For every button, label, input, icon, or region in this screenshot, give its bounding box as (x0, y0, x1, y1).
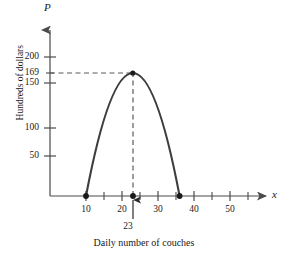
x-tick-label-20: 20 (107, 205, 137, 215)
chart-figure: P x 200 169 150 100 50 10 20 30 40 50 23… (0, 0, 288, 254)
y-axis-symbol: P (44, 2, 51, 13)
x-axis-title: Daily number of couches (0, 238, 288, 248)
x-tick-label-50: 50 (215, 205, 245, 215)
x-axis-symbol: x (272, 189, 277, 200)
parabola-plot (0, 0, 288, 254)
y-axis-title: Hundreds of dollars (16, 13, 26, 153)
x-tick-label-10: 10 (71, 205, 101, 215)
marker-right-root (177, 193, 183, 199)
x-tick-label-30: 30 (143, 205, 173, 215)
marker-vertex (130, 70, 135, 75)
marker-vertex-x-on-axis (130, 193, 136, 199)
vertex-x-callout-label: 23 (113, 222, 143, 232)
x-tick-label-40: 40 (179, 205, 209, 215)
marker-left-root (83, 193, 89, 199)
